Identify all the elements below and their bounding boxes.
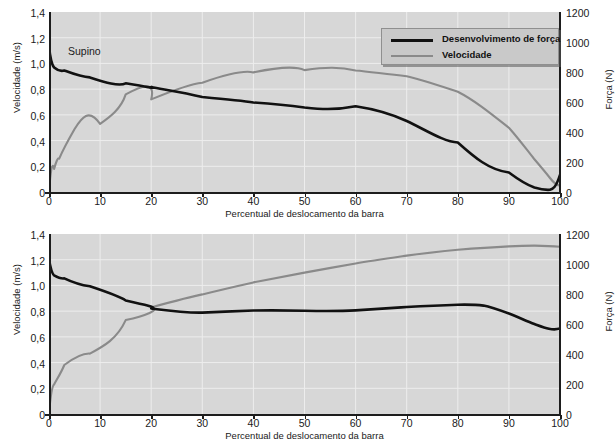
xtick-mark-bottom-8 xyxy=(458,415,460,419)
ytick-left-top-0: 1,4 xyxy=(0,8,45,19)
y-axis-left-label-bottom: Velocidade (m/s) xyxy=(11,248,22,352)
legend-swatch-forca-icon xyxy=(391,39,433,42)
annotation-supino: Supino xyxy=(68,45,101,58)
legend-top: Desenvolvimento de força Velocidade xyxy=(381,28,559,65)
ytick-left-top-2: 1,0 xyxy=(0,59,45,70)
legend-item-velocidade: Velocidade xyxy=(382,48,558,64)
chart-panel-arremesso: 1,4 1,2 1,0 0,8 0,6 0,4 0,2 0 1200 1000 … xyxy=(0,222,615,444)
xtick-mark-top-4 xyxy=(253,193,255,197)
xtick-top-9: 90 xyxy=(494,196,524,207)
ytick-right-top-4: 400 xyxy=(566,128,600,139)
ytick-right-top-5: 200 xyxy=(566,158,600,169)
xtick-bottom-7: 70 xyxy=(392,418,422,429)
xtick-top-10: 100 xyxy=(545,196,575,207)
ytick-right-top-2: 800 xyxy=(566,68,600,79)
x-axis-label-bottom: Percentual de deslocamento da barra xyxy=(49,430,560,441)
ytick-left-bottom-1: 1,2 xyxy=(0,256,45,267)
xtick-mark-bottom-9 xyxy=(509,415,511,419)
xtick-top-0: 0 xyxy=(34,196,64,207)
xtick-top-1: 10 xyxy=(85,196,115,207)
xtick-mark-top-9 xyxy=(509,193,511,197)
curve-forca-bottom xyxy=(49,260,560,330)
xtick-mark-top-7 xyxy=(407,193,409,197)
xtick-mark-bottom-4 xyxy=(253,415,255,419)
ytick-left-top-4: 0,6 xyxy=(0,111,45,122)
xtick-mark-top-1 xyxy=(100,193,102,197)
xtick-top-4: 40 xyxy=(238,196,268,207)
ytick-right-bottom-1: 1000 xyxy=(566,260,600,271)
xtick-bottom-8: 80 xyxy=(443,418,473,429)
ytick-right-bottom-4: 400 xyxy=(566,350,600,361)
ytick-right-top-3: 600 xyxy=(566,98,600,109)
curve-velocidade-bottom xyxy=(49,246,560,414)
xtick-top-7: 70 xyxy=(392,196,422,207)
xtick-top-2: 20 xyxy=(136,196,166,207)
xtick-mark-bottom-6 xyxy=(356,415,358,419)
ytick-left-top-3: 0,8 xyxy=(0,85,45,96)
xtick-top-6: 60 xyxy=(341,196,371,207)
curves-bottom xyxy=(49,234,560,414)
ytick-left-top-1: 1,2 xyxy=(0,34,45,45)
xtick-mark-top-0 xyxy=(49,193,51,197)
xtick-mark-bottom-5 xyxy=(305,415,307,419)
xtick-mark-bottom-0 xyxy=(49,415,51,419)
ytick-left-top-5: 0,4 xyxy=(0,137,45,148)
xtick-mark-top-8 xyxy=(458,193,460,197)
xtick-top-8: 80 xyxy=(443,196,473,207)
xtick-bottom-2: 20 xyxy=(136,418,166,429)
ytick-left-bottom-6: 0,2 xyxy=(0,384,45,395)
legend-item-forca: Desenvolvimento de força xyxy=(382,32,558,48)
x-axis-label-top: Percentual de deslocamento da barra xyxy=(49,208,560,219)
y-axis-right-label-top: Força (N) xyxy=(603,38,614,142)
xtick-top-5: 50 xyxy=(290,196,320,207)
xtick-mark-bottom-2 xyxy=(151,415,153,419)
xtick-mark-top-10 xyxy=(560,193,562,197)
curve-forca-top xyxy=(49,47,560,190)
ytick-right-bottom-3: 600 xyxy=(566,320,600,331)
xtick-bottom-1: 10 xyxy=(85,418,115,429)
xtick-mark-bottom-7 xyxy=(407,415,409,419)
figure-two-panel-chart: 1,4 1,2 1,0 0,8 0,6 0,4 0,2 0 1200 1000 … xyxy=(0,0,615,444)
ytick-right-bottom-2: 800 xyxy=(566,290,600,301)
xtick-bottom-10: 100 xyxy=(545,418,575,429)
ytick-left-bottom-0: 1,4 xyxy=(0,230,45,241)
ytick-right-bottom-5: 200 xyxy=(566,380,600,391)
legend-label-velocidade: Velocidade xyxy=(442,49,492,60)
y-axis-right-label-bottom: Força (N) xyxy=(603,260,614,364)
xtick-bottom-3: 30 xyxy=(187,418,217,429)
xtick-mark-top-6 xyxy=(356,193,358,197)
xtick-mark-bottom-3 xyxy=(202,415,204,419)
y-axis-right-bottom xyxy=(559,234,561,415)
xtick-bottom-9: 90 xyxy=(494,418,524,429)
xtick-bottom-4: 40 xyxy=(238,418,268,429)
xtick-bottom-5: 50 xyxy=(290,418,320,429)
ytick-right-bottom-0: 1200 xyxy=(566,230,600,241)
ytick-right-top-0: 1200 xyxy=(566,8,600,19)
xtick-mark-bottom-10 xyxy=(560,415,562,419)
legend-label-forca: Desenvolvimento de força xyxy=(442,33,560,44)
xtick-bottom-6: 60 xyxy=(341,418,371,429)
ytick-right-top-1: 1000 xyxy=(566,38,600,49)
ytick-left-bottom-4: 0,6 xyxy=(0,333,45,344)
ytick-left-top-6: 0,2 xyxy=(0,162,45,173)
xtick-mark-top-3 xyxy=(202,193,204,197)
y-axis-left-bottom xyxy=(49,234,51,415)
y-axis-left-top xyxy=(49,12,51,193)
xtick-mark-top-2 xyxy=(151,193,153,197)
chart-panel-supino: 1,4 1,2 1,0 0,8 0,6 0,4 0,2 0 1200 1000 … xyxy=(0,0,615,222)
xtick-mark-top-5 xyxy=(305,193,307,197)
y-axis-left-label-top: Velocidade (m/s) xyxy=(11,26,22,130)
xtick-bottom-0: 0 xyxy=(34,418,64,429)
ytick-left-bottom-5: 0,4 xyxy=(0,359,45,370)
curve-velocidade-top xyxy=(49,67,560,192)
xtick-top-3: 30 xyxy=(187,196,217,207)
xtick-mark-bottom-1 xyxy=(100,415,102,419)
ytick-left-bottom-3: 0,8 xyxy=(0,307,45,318)
legend-swatch-velocidade-icon xyxy=(391,55,433,57)
ytick-left-bottom-2: 1,0 xyxy=(0,281,45,292)
